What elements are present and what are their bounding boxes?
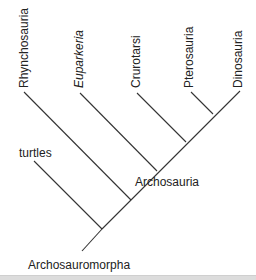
edge-crurotarsi: [137, 93, 186, 142]
tree-edges: [24, 91, 240, 251]
edge-pterosauria: [191, 92, 213, 114]
taxon-label-pterosauria: Pterosauria: [182, 26, 196, 88]
cladogram: Rhynchosauria Euparkeria Crurotarsi Pter…: [0, 0, 256, 280]
edge-root: [82, 229, 102, 251]
taxon-label-turtles: turtles: [19, 146, 52, 160]
taxon-label-dinosauria: Dinosauria: [231, 30, 245, 88]
edge-backbone: [102, 91, 240, 229]
taxon-label-euparkeria: Euparkeria: [72, 30, 86, 88]
edge-euparkeria: [80, 93, 157, 171]
taxon-label-rhynchosauria: Rhynchosauria: [17, 8, 31, 88]
clade-label-archosauromorpha: Archosauromorpha: [28, 258, 130, 272]
taxon-label-crurotarsi: Crurotarsi: [129, 35, 143, 88]
clade-label-archosauria: Archosauria: [135, 175, 199, 189]
bottom-border: [0, 275, 256, 280]
edge-turtles: [34, 161, 102, 229]
